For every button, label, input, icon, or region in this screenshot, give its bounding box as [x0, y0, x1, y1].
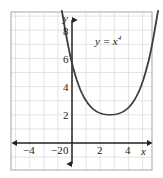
y-axis-name: y	[63, 13, 68, 24]
y-tick-label-4: 4	[63, 82, 69, 93]
y-tick-label-6: 6	[63, 54, 69, 65]
x-tick-label-neg2: −2	[51, 145, 63, 156]
x-tick-label-0: 0	[63, 145, 69, 156]
curve-equation-base: y = x	[95, 35, 118, 47]
y-tick-label-2: 2	[63, 110, 69, 121]
x-tick-label-2: 2	[97, 145, 103, 156]
y-tick-label-8: 8	[63, 26, 69, 37]
graph-figure: −4 −2 0 2 4 2 4 6 8 x y y = x4	[0, 0, 163, 178]
x-tick-label-neg4: −4	[23, 145, 35, 156]
curve-equation-exponent: 4	[118, 34, 122, 42]
curve-equation-label: y = x4	[95, 36, 121, 47]
x-axis-name: x	[141, 146, 146, 157]
x-tick-label-4: 4	[125, 145, 131, 156]
